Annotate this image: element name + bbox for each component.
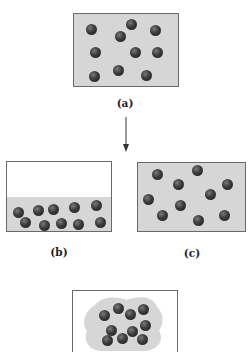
particle (127, 326, 138, 337)
particle (73, 219, 84, 230)
label-c: (c) (172, 247, 212, 259)
particle (175, 200, 186, 211)
particle (173, 179, 184, 190)
particle (222, 179, 233, 190)
particle (99, 310, 110, 321)
particle (56, 218, 67, 229)
particle (117, 333, 128, 344)
particle (152, 169, 163, 180)
particle (39, 220, 50, 231)
particle (48, 204, 59, 215)
label-b: (b) (39, 246, 79, 258)
particle (205, 189, 216, 200)
particle (125, 309, 136, 320)
particle (157, 210, 168, 221)
particle (192, 165, 203, 176)
particle (102, 335, 113, 346)
particle (20, 217, 31, 228)
particle (33, 205, 44, 216)
particle (193, 215, 204, 226)
particle (138, 304, 149, 315)
particle (113, 303, 124, 314)
particle (95, 217, 106, 228)
particle (91, 200, 102, 211)
particle (143, 194, 154, 205)
particle (69, 202, 80, 213)
particle (219, 210, 230, 221)
particle (13, 207, 24, 218)
particle (140, 320, 151, 331)
particle (106, 325, 117, 336)
particle (137, 334, 148, 345)
